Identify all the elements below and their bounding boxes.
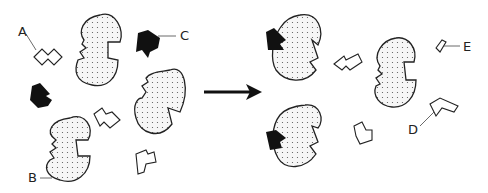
substrate-shape bbox=[430, 98, 458, 116]
leader-line bbox=[420, 112, 434, 126]
label-e: E bbox=[463, 39, 471, 54]
inhibitor-shape bbox=[30, 83, 52, 108]
enzyme-diagram: A C B D E bbox=[0, 0, 488, 193]
leader-line bbox=[26, 34, 36, 50]
enzyme-shape bbox=[47, 117, 91, 182]
substrate-shape bbox=[136, 150, 156, 174]
inhibitor-shape bbox=[136, 30, 160, 58]
enzyme-shape bbox=[375, 38, 416, 107]
label-a: A bbox=[18, 24, 27, 39]
diagram-svg: A C B D E bbox=[0, 0, 488, 193]
label-d: D bbox=[408, 122, 418, 137]
substrate-shape bbox=[94, 108, 120, 128]
substrate-shape bbox=[34, 49, 62, 65]
label-c: C bbox=[180, 28, 189, 43]
substrate-shape bbox=[354, 122, 372, 144]
label-b: B bbox=[28, 170, 37, 185]
substrate-shape bbox=[334, 54, 362, 70]
enzyme-shape bbox=[135, 69, 186, 133]
right-arrow-icon bbox=[204, 84, 262, 100]
enzyme-shape bbox=[76, 14, 121, 85]
